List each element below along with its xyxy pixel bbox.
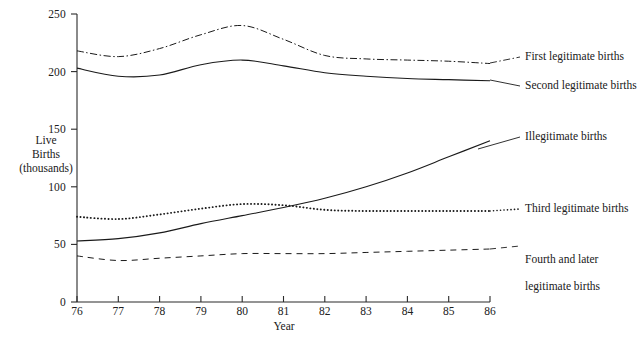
xtick-label-84: 84 — [390, 305, 424, 317]
series-label-fourth-line-1: Fourth and later — [525, 253, 600, 267]
series-label-first-legitimate-births: First legitimate births — [525, 50, 624, 64]
ytick-label-100: 100 — [26, 181, 66, 193]
series-path-second-legitimate-births — [77, 60, 490, 81]
chart-canvas: 0 50 100 150 200 250 76 77 78 79 80 81 8… — [0, 0, 643, 340]
xtick-label-86: 86 — [473, 305, 507, 317]
xtick-label-85: 85 — [432, 305, 466, 317]
series-label-fourth-and-later-legitimate-births: Fourth and later legitimate births — [525, 239, 600, 307]
series-label-illegitimate-births: Illegitimate births — [525, 130, 607, 144]
xtick-label-76: 76 — [60, 305, 94, 317]
x-axis-ticks — [77, 296, 490, 302]
xtick-label-82: 82 — [308, 305, 342, 317]
leader-lines — [478, 57, 520, 249]
xtick-label-83: 83 — [349, 305, 383, 317]
xtick-label-79: 79 — [184, 305, 218, 317]
series-label-second-legitimate-births: Second legitimate births — [525, 79, 637, 93]
series-path-fourth-and-later-legitimate-births — [77, 249, 490, 261]
y-axis-title-line-3: (thousands) — [0, 161, 92, 175]
series-path-third-legitimate-births — [77, 204, 490, 219]
series-path-illegitimate-births — [77, 141, 490, 241]
y-axis-title: Live Births (thousands) — [0, 133, 92, 175]
xtick-label-78: 78 — [143, 305, 177, 317]
xtick-label-80: 80 — [225, 305, 259, 317]
series-path-first-legitimate-births — [77, 25, 490, 63]
y-axis-title-line-2: Births — [0, 147, 92, 161]
series-label-fourth-line-2: legitimate births — [525, 280, 600, 294]
series-layer — [77, 25, 490, 260]
ytick-label-250: 250 — [26, 8, 66, 20]
xtick-label-77: 77 — [101, 305, 135, 317]
series-label-third-legitimate-births: Third legitimate births — [525, 202, 628, 216]
ytick-label-200: 200 — [26, 66, 66, 78]
xtick-label-81: 81 — [267, 305, 301, 317]
x-axis-title: Year — [244, 320, 324, 332]
y-axis-title-line-1: Live — [0, 133, 92, 147]
ytick-label-50: 50 — [33, 238, 66, 250]
